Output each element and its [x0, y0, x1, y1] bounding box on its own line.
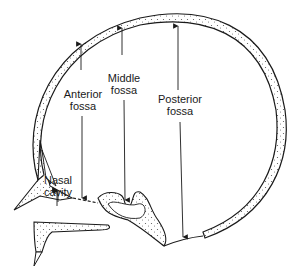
- label-anterior-fossa: Anterior fossa: [62, 88, 104, 112]
- foramen-magnum-edge: [164, 236, 203, 246]
- skull-section-drawing: [0, 0, 292, 271]
- skull-diagram: Anterior fossa Middle fossa Posterior fo…: [0, 0, 292, 271]
- label-nasal-cavity: Nasal cavity: [38, 174, 78, 198]
- middle-fossa-line2: fossa: [104, 84, 144, 96]
- cranial-vault: [33, 14, 286, 238]
- sphenoid-bone: [98, 192, 166, 246]
- label-posterior-fossa: Posterior fossa: [154, 93, 206, 117]
- posterior-fossa-line2: fossa: [154, 105, 206, 117]
- posterior-fossa-line1: Posterior: [154, 93, 206, 105]
- middle-fossa-line1: Middle: [104, 72, 144, 84]
- anterior-fossa-line1: Anterior: [62, 88, 104, 100]
- cribriform-plate-dashed-line: [73, 198, 98, 203]
- middle-fossa-arrow-down: [124, 100, 125, 200]
- nasal-cavity-line2: cavity: [38, 186, 78, 198]
- nasal-cavity-line1: Nasal: [38, 174, 78, 186]
- posterior-fossa-arrow-down: [180, 122, 183, 237]
- hard-palate: [34, 222, 110, 266]
- label-middle-fossa: Middle fossa: [104, 72, 144, 96]
- anterior-fossa-line2: fossa: [62, 100, 104, 112]
